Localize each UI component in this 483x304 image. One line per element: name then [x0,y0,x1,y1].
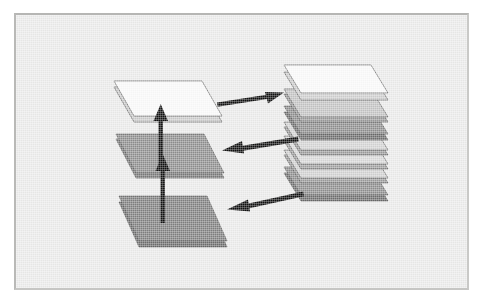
figure-frame [14,13,469,290]
assembled-stack [284,65,388,201]
diagram-scene [16,15,467,288]
diagram-canvas [16,15,471,292]
arrow-left-bottom[interactable] [227,192,304,212]
exploded-layers [114,81,227,247]
left-plane-bottom[interactable] [119,196,227,247]
arrow-right-top[interactable] [217,92,284,107]
left-plane-middle[interactable] [116,134,224,178]
stack-plane-1[interactable] [284,65,388,100]
left-plane-top[interactable] [114,81,222,122]
figure-root [0,0,483,304]
